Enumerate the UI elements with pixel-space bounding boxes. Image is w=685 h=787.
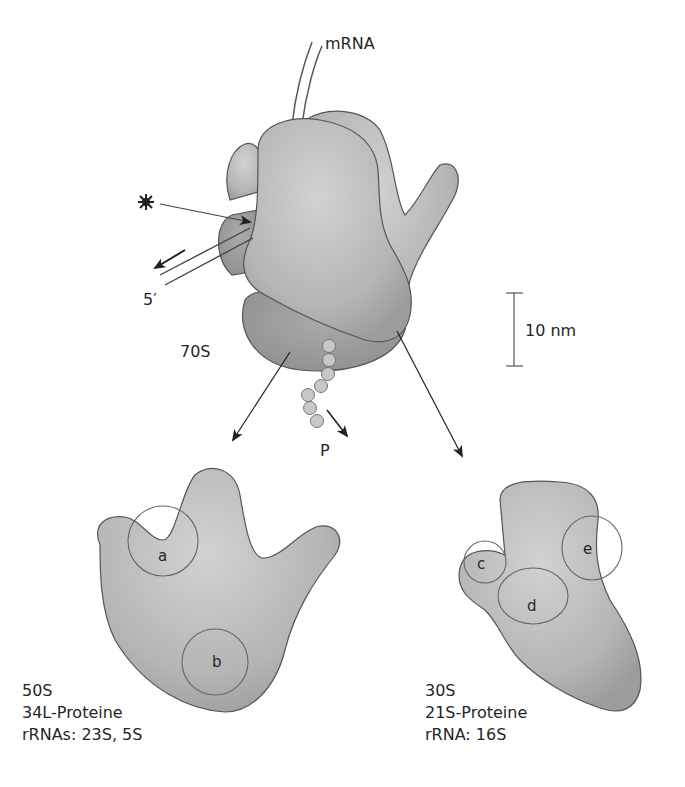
ribosome-70s-label: 70S — [180, 342, 211, 361]
caption-50s-rrnas: rRNAs: 23S, 5S — [22, 724, 142, 746]
scale-bar-label: 10 nm — [525, 321, 576, 340]
five-prime-label: 5′ — [143, 290, 157, 309]
caption-50s: 50S 34L-Proteine rRNAs: 23S, 5S — [22, 680, 142, 746]
arrow-to-50s — [233, 352, 290, 440]
subunit-50s: a b — [98, 468, 340, 712]
caption-30s-rrna: rRNA: 16S — [425, 724, 527, 746]
site-e-label: e — [583, 540, 592, 558]
subunit-30s: c d e — [459, 481, 641, 711]
site-d-label: d — [527, 597, 537, 615]
peptide-label: P — [320, 441, 330, 460]
site-a-label: a — [158, 547, 167, 565]
caption-30s: 30S 21S-Proteine rRNA: 16S — [425, 680, 527, 746]
site-b-label: b — [212, 653, 222, 671]
caption-30s-title: 30S — [425, 680, 527, 702]
site-c-label: c — [477, 555, 485, 573]
ribosome-diagram: mRNA 5′ 70S P 10 nm a b c d e — [0, 0, 685, 787]
caption-30s-proteins: 21S-Proteine — [425, 702, 527, 724]
ribosome-70s: mRNA 5′ 70S P — [138, 34, 458, 460]
arrow-to-30s — [397, 331, 462, 456]
scale-bar: 10 nm — [506, 293, 576, 366]
caption-50s-proteins: 34L-Proteine — [22, 702, 142, 724]
caption-50s-title: 50S — [22, 680, 142, 702]
mrna-label: mRNA — [325, 34, 375, 53]
burst-star-icon — [138, 194, 154, 210]
